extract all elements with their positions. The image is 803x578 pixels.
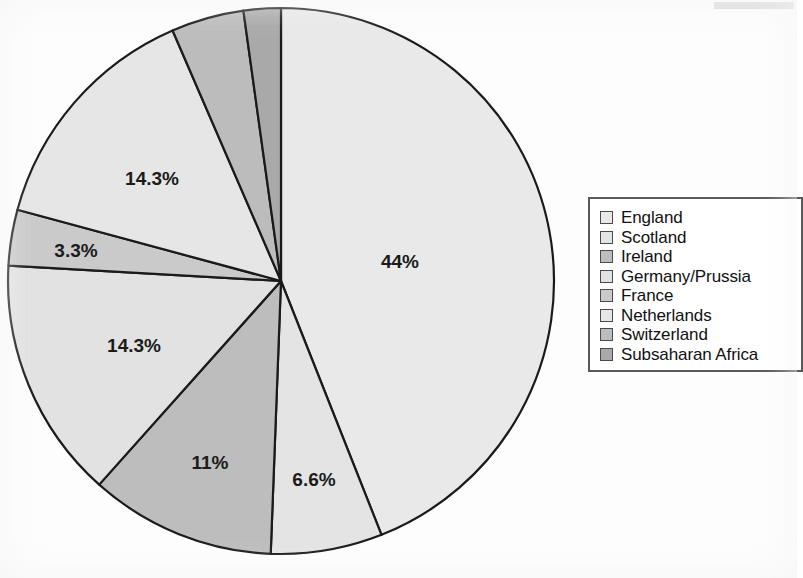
legend-item[interactable]: Subsaharan Africa (600, 345, 801, 365)
legend-item-label: Switzerland (621, 325, 708, 344)
legend-item-label: Netherlands (621, 306, 712, 325)
legend-item[interactable]: Germany/Prussia (600, 267, 801, 287)
legend-item-label: Scotland (621, 228, 686, 247)
chart-legend: EnglandScotlandIrelandGermany/PrussiaFra… (588, 197, 803, 372)
legend-item[interactable]: Scotland (600, 228, 801, 248)
legend-swatch-icon (600, 270, 613, 283)
legend-item-label: France (621, 286, 673, 305)
pie-slice-label: 6.6% (292, 469, 335, 490)
legend-swatch-icon (600, 328, 613, 341)
legend-item[interactable]: Ireland (600, 247, 801, 267)
legend-item[interactable]: Netherlands (600, 306, 801, 326)
pie-slice-label: 11% (192, 452, 229, 473)
legend-item-label: Subsaharan Africa (621, 345, 758, 364)
pie-slice-label: 3.3% (54, 240, 97, 261)
legend-swatch-icon (600, 231, 613, 244)
legend-item-label: Ireland (621, 247, 672, 266)
pie-slice-label: 14.3% (125, 168, 179, 189)
legend-swatch-icon (600, 309, 613, 322)
legend-swatch-icon (600, 250, 613, 263)
pie-slice-label: 44% (381, 251, 419, 272)
scan-artifact-smudge (714, 2, 794, 9)
pie-slice-label: 14.3% (107, 335, 161, 356)
legend-swatch-icon (600, 211, 613, 224)
legend-item-label: Germany/Prussia (621, 267, 751, 286)
legend-item[interactable]: England (600, 208, 801, 228)
legend-item[interactable]: Switzerland (600, 325, 801, 345)
legend-item[interactable]: France (600, 286, 801, 306)
pie-slice-group (8, 8, 554, 554)
legend-swatch-icon (600, 289, 613, 302)
legend-swatch-icon (600, 348, 613, 361)
legend-item-label: England (621, 208, 683, 227)
